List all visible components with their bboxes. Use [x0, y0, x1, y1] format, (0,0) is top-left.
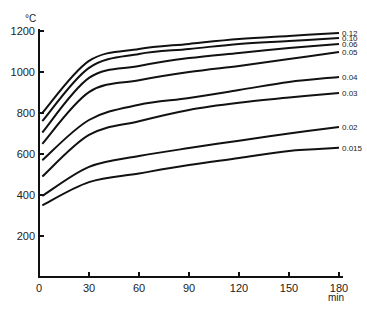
y-unit-label: °C — [25, 13, 36, 24]
y-tick-label: 400 — [17, 189, 35, 201]
x-unit-label: min — [328, 292, 344, 303]
series-label: 0.05 — [342, 48, 358, 57]
x-tick-label: 90 — [183, 282, 195, 294]
y-tick-label: 200 — [17, 230, 35, 242]
x-tick-label: 60 — [133, 282, 145, 294]
series-lines — [42, 33, 339, 205]
series-line-0.12 — [42, 33, 339, 113]
series-label: 0.015 — [342, 144, 363, 153]
temperature-time-chart: 20040060080010001200 0306090120150180 °C… — [0, 0, 367, 312]
x-ticks: 0306090120150180 — [36, 272, 348, 294]
series-label: 0.03 — [342, 89, 358, 98]
x-tick-label: 30 — [83, 282, 95, 294]
x-tick-label: 120 — [230, 282, 248, 294]
x-tick-label: 0 — [36, 282, 42, 294]
series-label: 0.02 — [342, 123, 358, 132]
series-label: 0.04 — [342, 73, 358, 82]
y-tick-label: 800 — [17, 107, 35, 119]
series-line-0.015 — [42, 148, 339, 206]
series-labels: 0.120.100.060.050.040.030.020.015 — [342, 29, 363, 153]
x-tick-label: 150 — [280, 282, 298, 294]
y-tick-label: 600 — [17, 148, 35, 160]
y-tick-label: 1200 — [11, 25, 35, 37]
y-tick-label: 1000 — [11, 66, 35, 78]
series-line-0.06 — [42, 44, 339, 133]
